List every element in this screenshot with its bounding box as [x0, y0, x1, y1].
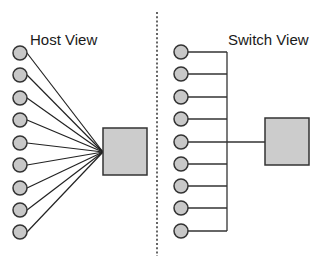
- switch-box: [265, 118, 309, 165]
- host-node: [13, 203, 27, 217]
- host-node: [13, 46, 27, 60]
- switch-node: [174, 45, 188, 59]
- host-view-links: [27, 53, 103, 232]
- switch-view-title: Switch View: [228, 31, 309, 48]
- switch-node: [174, 90, 188, 104]
- host-node: [13, 91, 27, 105]
- switch-node: [174, 179, 188, 193]
- host-node: [13, 225, 27, 239]
- switch-node: [174, 67, 188, 81]
- switch-node: [174, 112, 188, 126]
- host-node: [13, 158, 27, 172]
- host-view-title: Host View: [30, 31, 97, 48]
- switch-node: [174, 201, 188, 215]
- host-node: [13, 113, 27, 127]
- switch-nodes: [174, 45, 188, 238]
- host-box: [103, 128, 147, 175]
- switch-node: [174, 135, 188, 149]
- host-node: [13, 68, 27, 82]
- switch-view-links: [188, 52, 265, 231]
- host-node: [13, 136, 27, 150]
- switch-node: [174, 157, 188, 171]
- network-views-diagram: Host View Switch View: [0, 0, 320, 260]
- switch-node: [174, 224, 188, 238]
- host-nodes: [13, 46, 27, 239]
- host-node: [13, 181, 27, 195]
